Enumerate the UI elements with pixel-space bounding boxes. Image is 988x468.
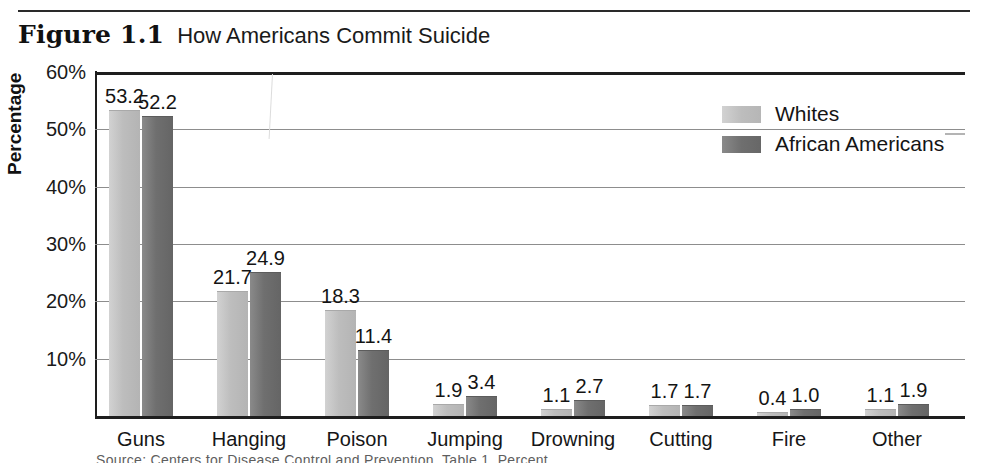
bar-value-label: 1.9: [900, 379, 928, 402]
bar-group: 21.724.9Hanging: [217, 72, 281, 416]
bar-whites: 18.3: [325, 310, 356, 416]
bar-group: 53.252.2Guns: [109, 72, 173, 416]
bar-value-label: 3.4: [468, 371, 496, 394]
x-axis-line: [95, 416, 965, 419]
bar-value-label: 0.4: [759, 387, 787, 410]
legend-label: Whites: [775, 102, 839, 126]
chart-legend: Whites African Americans: [722, 99, 944, 159]
bar-african-americans: 52.2: [142, 116, 173, 416]
y-axis-title: Percentage: [4, 73, 26, 175]
legend-item-african-americans: African Americans: [722, 129, 944, 159]
y-axis-tick-label: 50%: [46, 118, 86, 141]
bar-whites: 0.4: [757, 412, 788, 416]
x-axis-category-label: Jumping: [427, 428, 503, 451]
x-axis-category-label: Guns: [117, 428, 165, 451]
bar-whites: 53.2: [109, 110, 140, 416]
bar-value-label: 1.9: [435, 379, 463, 402]
bar-group: 18.311.4Poison: [325, 72, 389, 416]
y-axis-tick-label: 30%: [46, 233, 86, 256]
x-axis-category-label: Drowning: [531, 428, 615, 451]
scan-artifact-dash: [945, 133, 965, 135]
y-axis-tick-label: 60%: [46, 61, 86, 84]
bar-african-americans: 1.7: [682, 405, 713, 416]
bar-group: 1.71.7Cutting: [649, 72, 713, 416]
bar-value-label: 1.0: [792, 384, 820, 407]
bar-value-label: 11.4: [355, 325, 392, 348]
bar-value-label: 18.3: [321, 285, 360, 308]
bar-african-americans: 3.4: [466, 396, 497, 416]
bar-whites: 1.1: [541, 409, 572, 416]
bar-african-americans: 2.7: [574, 400, 605, 416]
bar-african-americans: 11.4: [358, 350, 389, 416]
bar-value-label: 1.7: [651, 380, 679, 403]
clipped-caption: Source: Centers for Disease Control and …: [96, 455, 886, 463]
x-axis-category-label: Hanging: [212, 428, 287, 451]
bar-african-americans: 1.0: [790, 409, 821, 416]
bar-chart: Percentage 60%50%40%30%20%10%53.252.2Gun…: [0, 0, 988, 468]
bar-whites: 1.7: [649, 405, 680, 416]
legend-swatch-icon: [722, 136, 761, 153]
x-axis-category-label: Fire: [772, 428, 806, 451]
bar-african-americans: 1.9: [898, 404, 929, 416]
y-axis-tick-label: 10%: [46, 347, 86, 370]
x-axis-category-label: Cutting: [649, 428, 712, 451]
legend-label: African Americans: [775, 132, 944, 156]
y-axis-tick-label: 20%: [46, 290, 86, 313]
bar-whites: 21.7: [217, 291, 248, 416]
bar-value-label: 1.7: [684, 380, 712, 403]
bar-value-label: 1.1: [543, 384, 571, 407]
bar-whites: 1.1: [865, 409, 896, 416]
y-axis-tick-label: 40%: [46, 175, 86, 198]
bar-african-americans: 24.9: [250, 272, 281, 416]
bar-group: 1.12.7Drowning: [541, 72, 605, 416]
bar-value-label: 24.9: [246, 247, 285, 270]
bar-whites: 1.9: [433, 404, 464, 416]
bar-group: 1.93.4Jumping: [433, 72, 497, 416]
x-axis-category-label: Other: [872, 428, 922, 451]
x-axis-category-label: Poison: [326, 428, 387, 451]
legend-item-whites: Whites: [722, 99, 944, 129]
bar-value-label: 2.7: [576, 375, 604, 398]
bar-value-label: 52.2: [138, 91, 177, 114]
bar-value-label: 1.1: [867, 384, 895, 407]
legend-swatch-icon: [722, 106, 761, 123]
